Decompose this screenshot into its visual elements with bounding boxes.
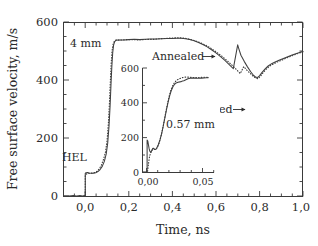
- annealed-arrowhead: [212, 55, 216, 59]
- x-tick-1-0: 1,0: [292, 200, 310, 214]
- label-0-57mm: 0.57 mm: [166, 118, 215, 131]
- figure-container: 600 400 200 0 0,0 0,2 0,4 0,6 0,8 1,0 Fr…: [0, 0, 318, 246]
- inset-x-tick-0-05: 0,05: [192, 176, 213, 187]
- y-tick-0: 0: [51, 189, 58, 203]
- x-tick-0-6: 0,6: [207, 200, 225, 214]
- x-tick-0-8: 0,8: [250, 200, 268, 214]
- main-y-tick-labels: 600 400 200 0: [36, 15, 58, 203]
- label-4mm: 4 mm: [70, 37, 102, 50]
- x-tick-0-0: 0,0: [76, 200, 94, 214]
- inset-y-tick-600: 600: [121, 63, 139, 74]
- x-tick-0-2: 0,2: [120, 200, 138, 214]
- y-tick-400: 400: [36, 73, 58, 87]
- y-tick-600: 600: [36, 15, 58, 29]
- inset-y-tick-400: 400: [121, 97, 139, 108]
- label-hel: HEL: [62, 151, 88, 164]
- label-annealed: Annealed: [151, 50, 204, 63]
- main-x-tick-labels: 0,0 0,2 0,4 0,6 0,8 1,0: [76, 200, 310, 214]
- x-axis-title: Time, ns: [156, 222, 210, 237]
- inset-y-tick-200: 200: [121, 132, 139, 143]
- annotation-annealed: Annealed: [151, 50, 216, 63]
- x-tick-0-4: 0,4: [163, 200, 181, 214]
- inset-x-tick-0-00: 0,00: [137, 176, 158, 187]
- y-axis-title: Free surface velocity, m/s: [5, 28, 20, 190]
- rolled-arrowhead: [242, 108, 246, 112]
- chart-svg: 600 400 200 0 0,0 0,2 0,4 0,6 0,8 1,0 Fr…: [0, 0, 318, 246]
- y-tick-200: 200: [36, 131, 58, 145]
